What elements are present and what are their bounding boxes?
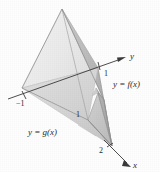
tick-label-x-two: 2 [99, 147, 103, 155]
tick-label-negative-one: −1 [16, 100, 25, 108]
tick-mark-negative-one [22, 91, 26, 99]
curve-label-f: y = f(x) [113, 80, 140, 89]
figure-container: y x −1 1 1 2 y = f(x) y = g(x) [0, 0, 160, 172]
y-axis-label: y [130, 52, 134, 61]
tick-label-interior-one: 1 [76, 111, 80, 119]
curve-label-g: y = g(x) [28, 128, 57, 137]
x-axis-line [104, 140, 127, 163]
x-axis-arrowhead [122, 160, 131, 167]
y-axis-arrowhead [117, 57, 126, 62]
tick-label-y-one: 1 [104, 70, 108, 78]
x-axis-label: x [133, 161, 137, 170]
